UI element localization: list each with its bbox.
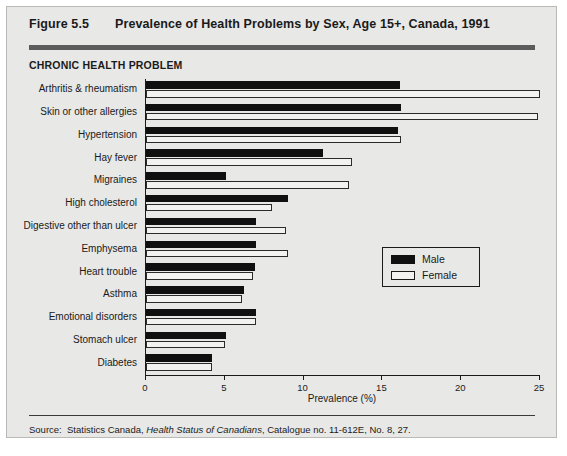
legend-swatch-male-icon xyxy=(391,255,415,264)
bar-female xyxy=(146,295,242,303)
x-axis-line xyxy=(145,375,539,376)
x-axis-tick xyxy=(224,375,225,380)
bar-male xyxy=(146,149,323,157)
category-label: Emotional disorders xyxy=(49,312,137,322)
bar-male xyxy=(146,286,244,294)
category-label: Digestive other than ulcer xyxy=(24,221,137,231)
x-axis-tick xyxy=(145,375,146,380)
x-axis-title: Prevalence (%) xyxy=(145,393,539,404)
category-label: Heart trouble xyxy=(79,267,137,277)
x-axis-tick-label: 0 xyxy=(142,382,147,393)
category-label: Hay fever xyxy=(94,153,137,163)
source-label: Source: xyxy=(29,424,62,435)
category-label: Hypertension xyxy=(78,130,137,140)
bar-female xyxy=(146,90,540,98)
source-text-part2: , Catalogue no. 11-612E, No. 8, 27. xyxy=(262,424,411,435)
bar-female xyxy=(146,318,256,326)
category-label: Emphysema xyxy=(81,244,137,254)
category-label: Migraines xyxy=(94,175,137,185)
bar-female xyxy=(146,113,538,121)
bar-female xyxy=(146,250,288,258)
figure-title: Prevalence of Health Problems by Sex, Ag… xyxy=(115,17,490,31)
x-axis-tick xyxy=(381,375,382,380)
bar-female xyxy=(146,181,349,189)
bar-female xyxy=(146,272,253,280)
x-axis-tick xyxy=(303,375,304,380)
source-text-part1: Statistics Canada, xyxy=(67,424,144,435)
x-axis-tick xyxy=(460,375,461,380)
chart-legend: Male Female xyxy=(382,247,480,287)
legend-swatch-female-icon xyxy=(391,271,415,280)
bar-male xyxy=(146,172,226,180)
bar-male xyxy=(146,241,256,249)
bar-male xyxy=(146,263,255,271)
x-axis-tick-label: 10 xyxy=(297,382,308,393)
category-label: Arthritis & rheumatism xyxy=(39,84,137,94)
bar-male xyxy=(146,104,401,112)
figure-root: Figure 5.5 Prevalence of Health Problems… xyxy=(0,0,567,456)
figure-number: Figure 5.5 xyxy=(29,17,89,31)
bar-male xyxy=(146,354,212,362)
category-axis-heading: CHRONIC HEALTH PROBLEM xyxy=(29,59,183,71)
header-divider xyxy=(29,45,535,50)
bar-male xyxy=(146,81,400,89)
figure-panel: Figure 5.5 Prevalence of Health Problems… xyxy=(6,6,557,438)
legend-label-male: Male xyxy=(422,253,445,265)
category-label: Diabetes xyxy=(98,358,137,368)
source-text-italic: Health Status of Canadians xyxy=(146,424,262,435)
plot-area: 0510152025 xyxy=(145,79,539,375)
bar-female xyxy=(146,341,225,349)
legend-label-female: Female xyxy=(422,269,457,281)
x-axis-tick-label: 5 xyxy=(221,382,226,393)
x-axis-tick-label: 15 xyxy=(376,382,387,393)
bar-male xyxy=(146,218,256,226)
figure-header: Figure 5.5 Prevalence of Health Problems… xyxy=(7,17,556,39)
category-label: Stomach ulcer xyxy=(73,335,137,345)
x-axis-tick-label: 25 xyxy=(534,382,545,393)
bar-female xyxy=(146,204,272,212)
x-axis-tick xyxy=(539,375,540,380)
bar-male xyxy=(146,332,226,340)
bar-male xyxy=(146,195,288,203)
bar-female xyxy=(146,363,212,371)
footer-divider xyxy=(29,415,535,416)
category-label: Asthma xyxy=(103,289,137,299)
bar-female xyxy=(146,136,401,144)
bar-female xyxy=(146,227,286,235)
x-axis-tick-label: 20 xyxy=(455,382,466,393)
bar-female xyxy=(146,158,352,166)
bar-male xyxy=(146,309,256,317)
source-note: Source: Statistics Canada, Health Status… xyxy=(29,424,411,435)
category-label: High cholesterol xyxy=(65,198,137,208)
category-label-column: Arthritis & rheumatismSkin or other alle… xyxy=(7,79,137,375)
bar-male xyxy=(146,127,398,135)
category-label: Skin or other allergies xyxy=(40,107,137,117)
